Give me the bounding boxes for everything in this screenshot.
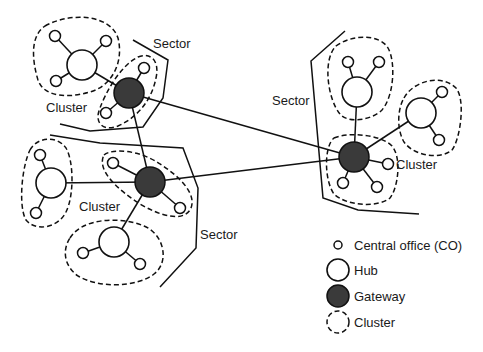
gateway-node [114,78,144,108]
co-node [51,76,62,87]
co-node [434,135,445,146]
link-g2-g3 [150,157,354,182]
legend-co-label: Central office (CO) [354,238,462,253]
hub-node [36,168,66,198]
network-diagram: Sector Cluster Sector Cluster Cluster Se… [0,0,483,352]
sector-label-bottom: Sector [200,227,238,242]
sector-label-top-left: Sector [153,36,191,51]
co-node [343,57,354,68]
legend-cluster-icon [327,311,349,333]
co-node [338,178,349,189]
hubs [36,50,436,257]
co-node [437,87,448,98]
diagram-svg: Sector Cluster Sector Cluster Cluster Se… [0,0,483,352]
legend-co-icon [334,241,342,249]
legend-gateway-icon [327,285,349,307]
cluster-label-right: Cluster [396,157,438,172]
legend-gateway-label: Gateway [354,289,406,304]
co-node [101,108,112,119]
legend-hub-icon [327,259,349,281]
legend-cluster-label: Cluster [354,315,396,330]
gateway-node [339,142,369,172]
co-node [78,248,89,259]
cluster-label-top-left: Cluster [46,100,88,115]
co-node [101,36,112,47]
hub-node [99,227,129,257]
co-node [139,63,150,74]
sector-label-right: Sector [272,93,310,108]
gateway-node [135,167,165,197]
hub-node [67,50,97,80]
co-node [31,208,42,219]
co-node [50,31,61,42]
co-node [374,57,385,68]
legend-hub-label: Hub [354,263,378,278]
hub-node [342,77,372,107]
co-node [35,150,46,161]
co-node [372,182,383,193]
cluster-label-bottom-left: Cluster [79,199,121,214]
hub-node [406,98,436,128]
legend: Central office (CO) Hub Gateway Cluster [327,238,462,333]
co-node [383,159,394,170]
co-node [175,203,186,214]
sector-boundary-right [311,31,419,214]
co-node [135,259,146,270]
co-node [108,158,119,169]
